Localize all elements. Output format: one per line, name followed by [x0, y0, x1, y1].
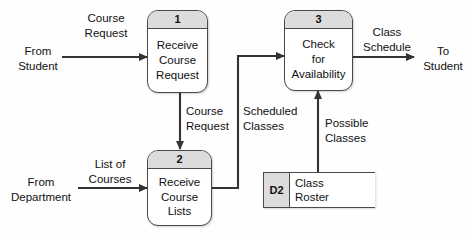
external-entity-from-department: From Department	[4, 175, 78, 204]
data-store-d2-label-line-2: Roster	[295, 190, 375, 204]
process-3-label-line-1: Check	[302, 37, 335, 52]
process-3-label-line-3: Availability	[291, 67, 345, 82]
process-3[interactable]: 3 Check for Availability	[284, 10, 353, 91]
flow-label-possible-classes: Possible Classes	[325, 116, 389, 145]
flow-label-course-request-internal-line-1: Course	[186, 104, 244, 119]
flow-label-course-request-internal: Course Request	[186, 104, 244, 133]
external-entity-from-student: From Student	[14, 44, 62, 73]
flow-label-course-request-in: Course Request	[74, 11, 138, 40]
process-2-label-line-1: Receive	[159, 175, 201, 190]
process-1-label-line-2: Course	[159, 53, 196, 68]
flow-label-course-request-internal-line-2: Request	[186, 119, 244, 134]
data-store-d2[interactable]: D2 Class Roster	[263, 172, 375, 208]
external-entity-to-student-line-1: To	[418, 44, 468, 59]
flow-label-class-schedule-line-2: Schedule	[356, 40, 418, 55]
process-1-label: Receive Course Request	[148, 29, 207, 92]
process-3-label: Check for Availability	[285, 29, 352, 90]
flow-label-list-of-courses-line-2: Courses	[80, 172, 140, 187]
dfd-canvas: 1 Receive Course Request 2 Receive Cours…	[0, 0, 470, 240]
process-2[interactable]: 2 Receive Course Lists	[147, 150, 212, 226]
flow-label-class-schedule: Class Schedule	[356, 25, 418, 54]
process-2-label: Receive Course Lists	[148, 169, 211, 225]
external-entity-from-department-line-1: From	[4, 175, 78, 190]
flow-label-course-request-in-line-2: Request	[74, 26, 138, 41]
process-1-number: 1	[148, 11, 207, 29]
process-3-label-line-2: for	[312, 52, 325, 67]
flow-label-possible-classes-line-1: Possible	[325, 116, 389, 131]
flow-label-scheduled-classes: Scheduled Classes	[243, 104, 305, 133]
external-entity-to-student: To Student	[418, 44, 468, 73]
process-1-label-line-1: Receive	[157, 38, 199, 53]
flow-label-scheduled-classes-line-1: Scheduled	[243, 104, 305, 119]
flow-label-course-request-in-line-1: Course	[74, 11, 138, 26]
process-2-number: 2	[148, 151, 211, 169]
flow-label-possible-classes-line-2: Classes	[325, 131, 389, 146]
data-store-d2-id: D2	[263, 173, 290, 207]
process-2-label-line-2: Course	[161, 190, 198, 205]
flow-label-list-of-courses-line-1: List of	[80, 157, 140, 172]
process-1-label-line-3: Request	[156, 68, 199, 83]
flow-label-class-schedule-line-1: Class	[356, 25, 418, 40]
external-entity-from-student-line-1: From	[14, 44, 62, 59]
external-entity-from-student-line-2: Student	[14, 59, 62, 74]
process-1[interactable]: 1 Receive Course Request	[147, 10, 208, 93]
external-entity-from-department-line-2: Department	[4, 190, 78, 205]
process-2-label-line-3: Lists	[168, 204, 192, 219]
flow-label-scheduled-classes-line-2: Classes	[243, 119, 305, 134]
process-3-number: 3	[285, 11, 352, 29]
flow-label-list-of-courses: List of Courses	[80, 157, 140, 186]
data-store-d2-label: Class Roster	[290, 173, 375, 207]
external-entity-to-student-line-2: Student	[418, 59, 468, 74]
data-store-d2-label-line-1: Class	[295, 176, 375, 190]
